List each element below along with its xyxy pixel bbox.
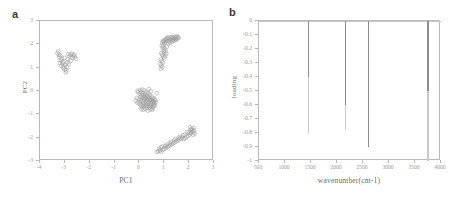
scatter-point <box>147 87 151 91</box>
panel-b-loading-spikes <box>259 21 441 161</box>
loading-baseline <box>259 21 441 22</box>
x-tick <box>64 160 65 163</box>
x-tick-label: 3500 <box>408 164 419 170</box>
panel-a-ylabel: PC2 <box>21 57 29 117</box>
y-tick <box>36 137 39 138</box>
y-tick <box>255 118 258 119</box>
y-tick <box>255 62 258 63</box>
x-tick <box>336 160 337 163</box>
y-tick <box>255 76 258 77</box>
x-tick-label: 2000 <box>330 164 341 170</box>
x-tick-label: 2 <box>187 164 190 170</box>
panel-b-xlabel: wavenumber(cm-1) <box>289 176 409 185</box>
y-tick <box>36 160 39 161</box>
x-tick-label: 0 <box>137 164 140 170</box>
x-tick-label: -2 <box>86 164 91 170</box>
scatter-cluster-upper-right-cluster <box>158 35 180 71</box>
y-tick-label: -0.2 <box>232 45 252 51</box>
x-tick <box>362 160 363 163</box>
scatter-cluster-center-cluster <box>134 87 159 112</box>
y-tick-label: -1 <box>232 157 252 163</box>
x-tick-label: 4000 <box>434 164 445 170</box>
panel-a: a -4-3-2-10123-3-2-10123 PC2 PC1 <box>0 0 227 197</box>
x-tick <box>414 160 415 163</box>
y-tick <box>255 146 258 147</box>
y-tick-label: 3 <box>15 17 33 23</box>
x-tick <box>163 160 164 163</box>
x-tick-label: 1000 <box>278 164 289 170</box>
y-tick <box>36 67 39 68</box>
figure-container: a -4-3-2-10123-3-2-10123 PC2 PC1 b 50010… <box>0 0 454 197</box>
panel-a-scatter-layer <box>40 21 214 161</box>
y-tick-label: 0 <box>232 17 252 23</box>
x-tick-label: 1 <box>162 164 165 170</box>
x-tick-label: 500 <box>254 164 262 170</box>
x-tick <box>114 160 115 163</box>
scatter-cluster-left-cluster <box>56 49 78 74</box>
panel-b: b 50010001500200025003000350040000-0.1-0… <box>227 0 454 197</box>
scatter-cluster-lower-right-cluster <box>155 126 197 155</box>
x-tick <box>213 160 214 163</box>
x-tick <box>310 160 311 163</box>
y-tick-label: -0.8 <box>232 129 252 135</box>
y-tick <box>36 90 39 91</box>
panel-b-plot-area <box>258 20 440 160</box>
x-tick-label: 1500 <box>304 164 315 170</box>
x-tick <box>258 160 259 163</box>
y-tick <box>255 48 258 49</box>
scatter-point <box>155 91 159 95</box>
x-tick-label: -1 <box>111 164 116 170</box>
panel-a-xlabel: PC1 <box>86 176 166 185</box>
x-tick-label: 3 <box>212 164 215 170</box>
loading-peak-core <box>345 21 346 105</box>
x-tick <box>39 160 40 163</box>
x-tick <box>188 160 189 163</box>
x-tick <box>89 160 90 163</box>
scatter-point <box>136 89 140 93</box>
y-tick-label: -2 <box>15 134 33 140</box>
y-tick-label: -3 <box>15 157 33 163</box>
y-tick <box>36 20 39 21</box>
loading-peak-core <box>368 21 369 147</box>
loading-peak-core <box>308 21 309 77</box>
y-tick <box>255 90 258 91</box>
y-tick-label: -0.1 <box>232 31 252 37</box>
y-tick <box>36 43 39 44</box>
y-tick-label: -0.9 <box>232 143 252 149</box>
x-tick <box>388 160 389 163</box>
y-tick <box>255 20 258 21</box>
x-tick <box>440 160 441 163</box>
scatter-point <box>62 56 66 60</box>
y-tick <box>36 113 39 114</box>
y-tick <box>255 132 258 133</box>
x-tick-label: -4 <box>37 164 42 170</box>
x-tick-label: 2500 <box>356 164 367 170</box>
panel-b-ylabel: loading <box>230 57 238 117</box>
x-tick <box>138 160 139 163</box>
y-tick <box>255 104 258 105</box>
x-tick-label: -3 <box>62 164 67 170</box>
loading-peak-core <box>427 21 429 91</box>
x-tick-label: 3000 <box>382 164 393 170</box>
scatter-point <box>72 53 76 57</box>
x-tick <box>284 160 285 163</box>
y-tick <box>255 34 258 35</box>
y-tick-label: 2 <box>15 40 33 46</box>
y-tick <box>255 160 258 161</box>
panel-a-plot-area <box>39 20 213 160</box>
